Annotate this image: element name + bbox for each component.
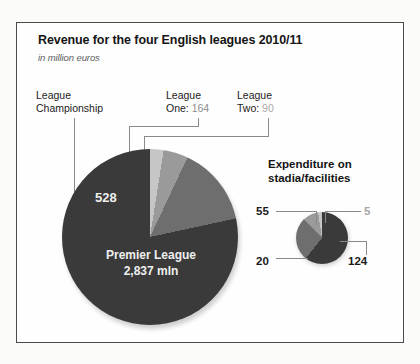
expenditure-value-124: 124 xyxy=(348,255,367,267)
leader-line-exp-55-drop xyxy=(316,211,317,225)
main-pie-chart xyxy=(62,149,238,325)
figure-title: Revenue for the four English leagues 201… xyxy=(38,33,302,47)
premier-label-line1: Premier League xyxy=(106,248,196,262)
leader-line-league-one-horizontal xyxy=(129,126,199,127)
figure-subtitle: in million euros xyxy=(38,52,100,63)
league-two-value: 90 xyxy=(262,102,274,114)
league-one-label-line2: One: xyxy=(166,102,192,114)
leader-line-league-one-stem xyxy=(198,118,199,126)
league-one-label-line1: League xyxy=(166,89,201,101)
leader-line-league-two-horizontal xyxy=(144,136,269,137)
leader-line-league-two-stem xyxy=(268,118,269,136)
championship-label-line1: League xyxy=(36,89,71,101)
league-two-label-line1: League xyxy=(237,89,272,101)
league-two-label-line2: Two: xyxy=(237,102,262,114)
expenditure-value-55: 55 xyxy=(256,205,269,217)
expenditure-pie-chart xyxy=(296,212,348,264)
slice-label-championship-value: 528 xyxy=(95,190,117,205)
callout-label-league-two: League Two: 90 xyxy=(237,89,274,114)
expenditure-value-5: 5 xyxy=(364,205,370,217)
leader-line-exp-5-drop xyxy=(325,211,326,223)
callout-label-league-one: League One: 164 xyxy=(166,89,209,114)
leader-line-exp-20 xyxy=(276,258,308,259)
expenditure-value-20: 20 xyxy=(256,255,269,267)
premier-label-line2: 2,837 mln xyxy=(124,264,179,278)
leader-line-championship xyxy=(74,118,75,198)
leader-line-exp-124-drop xyxy=(366,241,367,255)
championship-label-line2: Championship xyxy=(36,102,103,114)
expenditure-title-line2: stadia/facilities xyxy=(268,172,350,184)
leader-line-exp-5 xyxy=(325,211,361,212)
callout-label-championship: League Championship xyxy=(36,89,103,114)
slice-label-premier-league: Premier League 2,837 mln xyxy=(96,247,206,279)
league-one-value: 164 xyxy=(192,102,210,114)
expenditure-title: Expenditure on stadia/facilities xyxy=(268,157,352,185)
leader-line-exp-55 xyxy=(276,211,316,212)
expenditure-title-line1: Expenditure on xyxy=(268,158,352,170)
leader-line-exp-124 xyxy=(340,241,366,242)
